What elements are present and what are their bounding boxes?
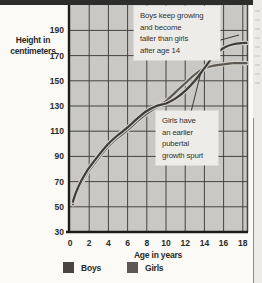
annotation-boys-note: Boys keep growing and become taller than… (134, 6, 220, 60)
y-tick-label: 130 (50, 101, 64, 111)
annotation-girls-note: Girls have an earlier pubertal growth sp… (156, 111, 218, 165)
x-axis-title: Age in years (68, 250, 248, 260)
x-tick-label: 12 (180, 238, 190, 248)
adjacent-page-artifact (253, 0, 262, 283)
legend-label-boys: Boys (81, 263, 101, 273)
legend-label-girls: Girls (145, 263, 163, 273)
y-tick-label: 190 (50, 25, 64, 35)
legend-item-boys: Boys (63, 262, 101, 273)
boys-swatch-icon (63, 262, 74, 273)
girls-swatch-icon (127, 262, 138, 273)
y-tick-label: 150 (50, 76, 64, 86)
scanned-growth-chart-figure: 19017015013011090705030024681012141618 H… (0, 0, 262, 283)
x-tick-label: 6 (125, 238, 130, 248)
x-tick-label: 14 (200, 238, 210, 248)
legend-item-girls: Girls (127, 262, 163, 273)
y-tick-label: 50 (55, 202, 65, 212)
x-tick-label: 18 (238, 238, 248, 248)
y-axis-title: Height in centimeters (4, 35, 62, 58)
x-tick-label: 10 (161, 238, 171, 248)
legend: Boys Girls (63, 262, 163, 273)
x-tick-label: 0 (68, 238, 73, 248)
y-tick-label: 30 (55, 227, 65, 237)
y-tick-label: 90 (55, 151, 65, 161)
x-tick-label: 8 (144, 238, 149, 248)
x-tick-label: 2 (87, 238, 92, 248)
x-tick-label: 4 (106, 238, 111, 248)
x-tick-label: 16 (219, 238, 229, 248)
y-tick-label: 70 (55, 177, 65, 187)
y-tick-label: 110 (50, 126, 64, 136)
